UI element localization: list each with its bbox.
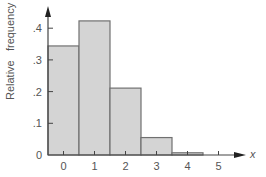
histogram-chart: 0.1.2.3.4 012345 bbox=[0, 0, 266, 177]
x-tick-label: 4 bbox=[184, 160, 190, 172]
bar-1 bbox=[79, 21, 110, 155]
x-tick-label: 2 bbox=[122, 160, 128, 172]
x-tick-label: 3 bbox=[153, 160, 159, 172]
x-axis-arrow-icon bbox=[234, 152, 246, 158]
bar-2 bbox=[110, 88, 141, 155]
bars-group bbox=[48, 21, 203, 155]
y-axis-label: Relative frequency bbox=[4, 3, 16, 100]
x-axis-label: x bbox=[250, 148, 256, 160]
bar-0 bbox=[48, 46, 79, 155]
y-tick-label: .4 bbox=[33, 22, 42, 34]
x-tick-label: 1 bbox=[91, 160, 97, 172]
y-tick-label: .3 bbox=[33, 54, 42, 66]
x-tick-label: 0 bbox=[60, 160, 66, 172]
y-tick-label: .1 bbox=[33, 117, 42, 129]
y-axis-arrow-icon bbox=[45, 6, 51, 17]
y-tick-label: .2 bbox=[33, 86, 42, 98]
y-tick-label: 0 bbox=[36, 149, 42, 161]
x-tick-label: 5 bbox=[215, 160, 221, 172]
